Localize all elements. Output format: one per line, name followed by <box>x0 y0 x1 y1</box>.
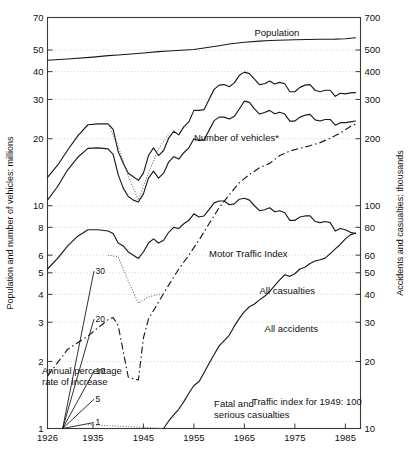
fan-ray-label: 20 <box>95 314 105 324</box>
right-tick-label: 20 <box>365 356 376 367</box>
series-label: All accidents <box>265 323 319 334</box>
left-tick-label: 4 <box>38 289 43 300</box>
y-axis-title-right: Accidents and casualties: thousands <box>395 150 405 296</box>
left-tick-label: 30 <box>33 94 44 105</box>
bottom-axis-tick-labels: 1926193519451955196519751985 <box>37 432 356 443</box>
left-tick-label: 50 <box>33 44 44 55</box>
series-trace <box>48 38 356 61</box>
x-tick-label: 1926 <box>37 432 58 443</box>
right-tick-label: 200 <box>365 133 381 144</box>
series-labels: PopulationAll casualtiesAll accidentsNum… <box>194 27 318 420</box>
x-tick-label: 1945 <box>133 432 154 443</box>
left-tick-label: 5 <box>38 267 43 278</box>
left-tick-label: 8 <box>38 222 43 233</box>
fan-ray-label: 30 <box>95 266 105 276</box>
series-label: All casualties <box>260 285 316 296</box>
right-tick-label: 40 <box>365 289 376 300</box>
series-label: Fatal and <box>214 398 254 409</box>
bottom-axis-ticks <box>48 424 346 429</box>
series-label: Population <box>254 27 299 38</box>
left-tick-label: 6 <box>38 250 43 261</box>
series-label: Motor Traffic Index <box>209 248 288 259</box>
annual-rate-fan: 30201051 <box>63 266 106 429</box>
left-tick-label: 10 <box>33 200 44 211</box>
x-tick-label: 1935 <box>82 432 103 443</box>
right-tick-label: 30 <box>365 317 376 328</box>
traffic-index-note: Traffic index for 1949: 100 <box>252 396 362 407</box>
x-tick-label: 1955 <box>183 432 204 443</box>
series-trace <box>48 101 356 202</box>
series-trace <box>108 124 169 201</box>
right-axis-tick-labels: 10203040506080100200300400500700 <box>365 12 381 434</box>
x-tick-label: 1975 <box>284 432 305 443</box>
right-tick-label: 10 <box>365 423 376 434</box>
right-tick-label: 60 <box>365 250 376 261</box>
series-label: serious casualties <box>214 409 290 420</box>
left-tick-label: 3 <box>38 317 43 328</box>
series-trace <box>48 124 356 380</box>
right-tick-label: 700 <box>365 12 381 23</box>
fan-ray-label: 1 <box>95 417 100 427</box>
series-trace <box>108 255 164 303</box>
series-trace <box>48 198 356 269</box>
left-tick-label: 20 <box>33 133 44 144</box>
chart-container: 30201051 1234568102030405070 10203040506… <box>0 0 414 452</box>
right-tick-label: 500 <box>365 44 381 55</box>
x-tick-label: 1965 <box>234 432 255 443</box>
right-tick-label: 300 <box>365 94 381 105</box>
fan-ray-label: 5 <box>95 394 100 404</box>
fan-title-line2: rate of increase <box>42 376 107 387</box>
right-tick-label: 50 <box>365 267 376 278</box>
right-tick-label: 80 <box>365 222 376 233</box>
right-axis-ticks <box>356 18 361 429</box>
right-tick-label: 100 <box>365 200 381 211</box>
left-tick-label: 40 <box>33 66 44 77</box>
y-axis-title-left: Population and number of vehicles: milli… <box>5 136 15 310</box>
fan-title-line1: Annual percentage <box>42 365 122 376</box>
series-trace <box>48 72 356 180</box>
right-tick-label: 400 <box>365 66 381 77</box>
series-label: Number of vehicles* <box>194 132 279 143</box>
left-tick-label: 70 <box>33 12 44 23</box>
x-tick-label: 1985 <box>335 432 356 443</box>
fan-ray <box>63 423 94 429</box>
road-accidents-log-chart: 30201051 1234568102030405070 10203040506… <box>0 0 414 452</box>
